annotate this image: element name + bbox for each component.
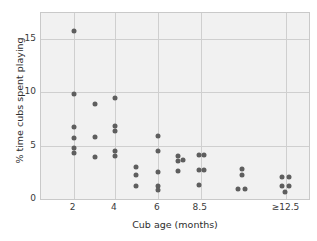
data-point xyxy=(112,153,117,158)
data-point xyxy=(92,135,97,140)
data-point xyxy=(71,92,76,97)
data-point xyxy=(243,186,248,191)
data-point xyxy=(155,134,160,139)
data-point xyxy=(134,164,139,169)
gridline-horizontal xyxy=(41,39,309,40)
x-tick-label: 2 xyxy=(70,202,76,212)
data-point xyxy=(196,153,201,158)
data-point xyxy=(286,174,291,179)
x-tick-label: 8.5 xyxy=(193,202,207,212)
plot-area xyxy=(40,12,310,200)
data-point xyxy=(175,169,180,174)
data-point xyxy=(71,29,76,34)
x-axis-tick-labels: 2468.5≥12.5 xyxy=(40,202,310,216)
data-point xyxy=(134,184,139,189)
x-axis-title: Cub age (months) xyxy=(40,219,310,230)
data-point xyxy=(134,173,139,178)
data-point xyxy=(283,190,288,195)
y-tick-label: 0 xyxy=(2,193,36,203)
data-point xyxy=(71,125,76,130)
data-point xyxy=(112,95,117,100)
data-point xyxy=(280,183,285,188)
data-point xyxy=(202,168,207,173)
gridline-vertical xyxy=(115,13,116,199)
data-point xyxy=(92,155,97,160)
scatter-plot-figure: 051015 2468.5≥12.5 Cub age (months) % ti… xyxy=(0,0,317,241)
y-axis-title: % time cubs spent playing xyxy=(14,11,25,191)
data-point xyxy=(202,153,207,158)
data-point xyxy=(71,150,76,155)
gridline-horizontal xyxy=(41,146,309,147)
x-tick-label: 4 xyxy=(111,202,117,212)
data-point xyxy=(155,170,160,175)
data-point xyxy=(112,123,117,128)
data-point xyxy=(112,129,117,134)
data-point xyxy=(235,186,240,191)
data-point xyxy=(155,148,160,153)
data-point xyxy=(196,168,201,173)
data-point xyxy=(180,157,185,162)
data-point xyxy=(286,183,291,188)
data-point xyxy=(240,167,245,172)
gridline-vertical xyxy=(74,13,75,199)
data-point xyxy=(92,101,97,106)
data-point xyxy=(71,136,76,141)
data-point xyxy=(196,183,201,188)
data-point xyxy=(240,173,245,178)
data-point xyxy=(175,158,180,163)
x-tick-label: 6 xyxy=(154,202,160,212)
x-tick-label: ≥12.5 xyxy=(272,202,300,212)
gridline-vertical xyxy=(286,13,287,199)
data-point xyxy=(280,174,285,179)
data-point xyxy=(155,188,160,193)
gridline-horizontal xyxy=(41,92,309,93)
